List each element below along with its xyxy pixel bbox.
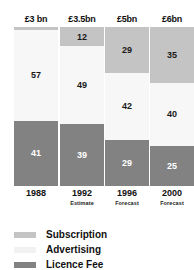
segment-value: 12 xyxy=(60,32,104,41)
segment-advertising[interactable]: 57 xyxy=(14,30,58,121)
x-axis-label-1992: 1992 Estimate xyxy=(60,188,104,207)
x-axis-note: Estimate xyxy=(60,199,104,207)
legend-label: Licence Fee xyxy=(46,259,103,270)
segment-value: 35 xyxy=(150,50,194,59)
stacked-bar: 2 57 41 xyxy=(14,27,58,186)
bar-column-1992: £3.5bn 12 49 39 xyxy=(60,0,104,186)
chart-legend: Subscription Advertising Licence Fee xyxy=(14,228,184,270)
legend-swatch-icon xyxy=(14,247,36,253)
segment-licence-fee[interactable]: 41 xyxy=(14,121,58,186)
x-axis-year: 1988 xyxy=(14,188,58,199)
legend-label: Subscription xyxy=(46,229,107,241)
segment-advertising[interactable]: 49 xyxy=(60,46,104,124)
x-axis-label-2000: 2000 Forecast xyxy=(150,188,194,207)
segment-value: 39 xyxy=(60,150,104,159)
segment-value: 40 xyxy=(150,110,194,119)
x-axis-label-1988: 1988 xyxy=(14,188,58,199)
legend-label: Advertising xyxy=(46,244,101,256)
column-total-label: £5bn xyxy=(105,14,149,24)
segment-licence-fee[interactable]: 25 xyxy=(150,146,194,186)
segment-advertising[interactable]: 40 xyxy=(150,83,194,147)
legend-item-subscription[interactable]: Subscription xyxy=(14,228,184,242)
legend-swatch-icon xyxy=(14,262,36,268)
column-total-label: £3.5bn xyxy=(60,14,104,24)
segment-licence-fee[interactable]: 29 xyxy=(105,140,149,186)
segment-licence-fee[interactable]: 39 xyxy=(60,124,104,186)
x-axis-note: Forecast xyxy=(150,199,194,207)
x-axis-year: 1992 xyxy=(60,188,104,199)
x-axis-year: 2000 xyxy=(150,188,194,199)
stacked-bar: 35 40 25 xyxy=(150,27,194,186)
x-axis-note: Forecast xyxy=(105,199,149,207)
segment-value: 57 xyxy=(14,71,58,80)
segment-value: 29 xyxy=(105,46,149,55)
column-total-label: £3 bn xyxy=(14,14,58,24)
x-axis-label-1996: 1996 Forecast xyxy=(105,188,149,207)
column-total-label: £6bn xyxy=(150,14,194,24)
x-axis-labels: 1988 1992 Estimate 1996 Forecast 2000 Fo… xyxy=(0,188,194,214)
bar-column-1996: £5bn 29 42 29 xyxy=(105,0,149,186)
legend-item-advertising[interactable]: Advertising xyxy=(14,243,184,257)
segment-advertising[interactable]: 42 xyxy=(105,73,149,140)
segment-value: 42 xyxy=(105,102,149,111)
segment-value: 25 xyxy=(150,162,194,171)
segment-value: 49 xyxy=(60,81,104,90)
bar-column-2000: £6bn 35 40 25 xyxy=(150,0,194,186)
segment-subscription[interactable]: 12 xyxy=(60,27,104,46)
segment-value: 29 xyxy=(105,158,149,167)
stacked-bar: 12 49 39 xyxy=(60,27,104,186)
stacked-bar: 29 42 29 xyxy=(105,27,149,186)
bar-column-1988: £3 bn 2 57 41 xyxy=(14,0,58,186)
x-axis-year: 1996 xyxy=(105,188,149,199)
stacked-bar-chart: £3 bn 2 57 41 £3.5bn 12 49 xyxy=(0,0,194,270)
segment-value: 41 xyxy=(14,149,58,158)
segment-subscription[interactable]: 29 xyxy=(105,27,149,73)
legend-item-licence-fee[interactable]: Licence Fee xyxy=(14,258,184,270)
chart-plot-area: £3 bn 2 57 41 £3.5bn 12 49 xyxy=(0,0,194,186)
segment-subscription[interactable]: 35 xyxy=(150,27,194,83)
legend-swatch-icon xyxy=(14,232,36,238)
